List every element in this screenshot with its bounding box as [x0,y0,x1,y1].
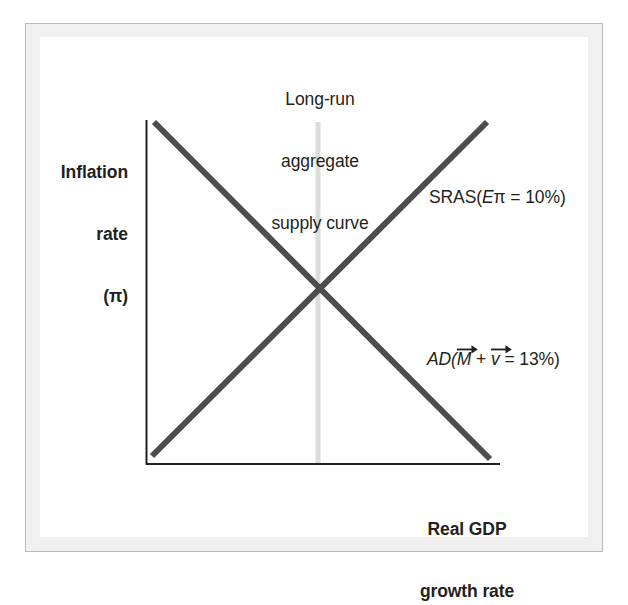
y-axis-label: Inflation rate (π) [18,121,128,348]
y-axis-label-line3: (π) [18,286,128,307]
sras-label-pi: π [494,187,506,207]
ad-curve-label: AD(M + v = 13%) [427,349,560,370]
x-axis-label: Real GDP growth rate [372,478,562,605]
ad-label-money-var: M [457,349,471,369]
x-axis-label-line1: Real GDP [372,519,562,540]
x-axis-label-line2: growth rate [372,581,562,602]
ad-label-prefix: AD( [427,349,457,369]
sras-curve-label: SRAS(Eπ = 10%) [429,187,566,208]
ad-label-money-vector: M [457,349,471,370]
lras-label-line3: supply curve [220,213,420,234]
y-axis-label-line1: Inflation [18,162,128,183]
sras-label-value: = 10%) [506,187,566,207]
ad-label-value: = 13%) [500,349,560,369]
ad-label-velocity-vector: v [491,349,500,370]
y-axis-label-line2: rate [18,224,128,245]
ad-label-plus: + [471,349,491,369]
lras-label-line2: aggregate [220,151,420,172]
ad-label-velocity-var: v [491,349,500,369]
sras-label-prefix: SRAS( [429,187,482,207]
lras-curve-label: Long-run aggregate supply curve [220,48,420,275]
lras-label-line1: Long-run [220,89,420,110]
sras-label-expectation-var: E [482,187,494,207]
